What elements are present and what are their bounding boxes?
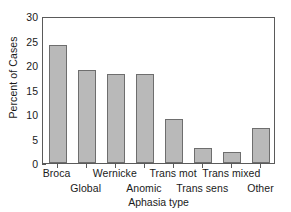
y-axis-tick-label: 20	[16, 61, 38, 71]
x-axis-tick-label: Other	[220, 182, 291, 194]
x-axis-title: Aphasia type	[42, 196, 275, 208]
bar	[194, 148, 212, 163]
y-axis-tick-label: 15	[16, 86, 38, 96]
bar	[252, 128, 270, 163]
y-axis-tick-label: 5	[16, 135, 38, 145]
bar	[78, 70, 96, 163]
y-axis-tick-label: 30	[16, 12, 38, 22]
bar	[107, 74, 125, 163]
bar	[165, 119, 183, 163]
bar	[223, 152, 241, 163]
bar-chart-figure: Percent of Cases 051015202530 BrocaGloba…	[0, 0, 291, 212]
plot-area	[42, 17, 275, 164]
y-axis-tick-labels: 051015202530	[14, 17, 38, 164]
y-axis-tick-label: 10	[16, 110, 38, 120]
bar	[49, 45, 67, 163]
bar	[136, 74, 154, 163]
y-axis-tick-label: 25	[16, 37, 38, 47]
x-axis-tick-label: Trans mixed	[191, 167, 271, 179]
